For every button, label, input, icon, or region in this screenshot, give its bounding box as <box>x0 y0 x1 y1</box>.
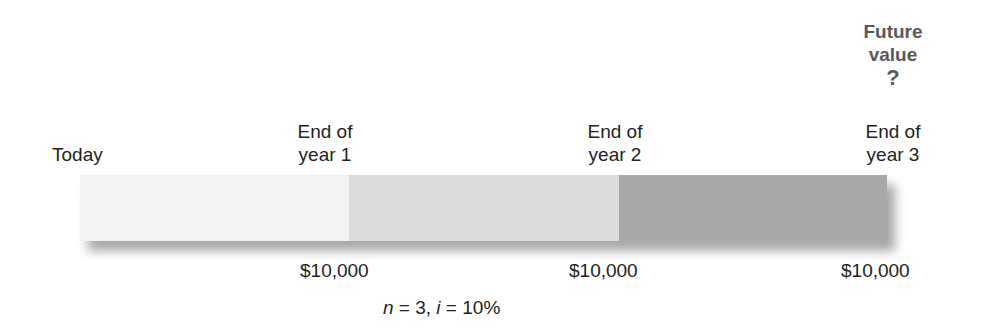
amount-year-3: $10,000 <box>841 259 910 282</box>
segment-year-2 <box>349 175 619 241</box>
segment-year-1 <box>80 175 349 241</box>
params-label: n = 3, i = 10% <box>383 296 500 319</box>
question-mark-icon: ? <box>838 66 948 89</box>
amount-year-2: $10,000 <box>569 259 638 282</box>
timeline-bar <box>80 175 887 241</box>
segment-year-3 <box>619 175 887 241</box>
future-value-line2: value <box>838 43 948 66</box>
label-end-year-3: End of year 3 <box>838 120 948 166</box>
amount-year-1: $10,000 <box>300 259 369 282</box>
future-value-label: Future value ? <box>838 20 948 89</box>
label-today: Today <box>52 143 103 166</box>
label-end-year-2: End of year 2 <box>560 120 670 166</box>
future-value-line1: Future <box>838 20 948 43</box>
label-end-year-1: End of year 1 <box>270 120 380 166</box>
